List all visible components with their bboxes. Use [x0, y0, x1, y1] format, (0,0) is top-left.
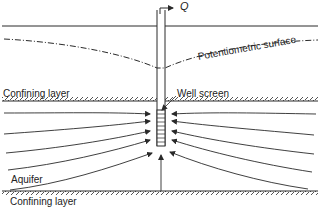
confined-aquifer-well-diagram: Q Potentiometric surface Confining layer…	[0, 0, 320, 209]
aquifer-label: Aquifer	[11, 175, 43, 185]
discharge-arrow	[160, 8, 173, 14]
upper-confining-layer-label: Confining layer	[3, 89, 70, 99]
well-screen-label: Well screen	[177, 89, 229, 99]
lower-confining-layer-boundary	[2, 191, 318, 195]
well-screen	[157, 110, 165, 146]
lower-confining-layer-label: Confining layer	[10, 197, 77, 207]
discharge-label: Q	[180, 1, 189, 12]
diagram-drawing	[0, 0, 320, 209]
flow-lines-right	[170, 113, 316, 189]
